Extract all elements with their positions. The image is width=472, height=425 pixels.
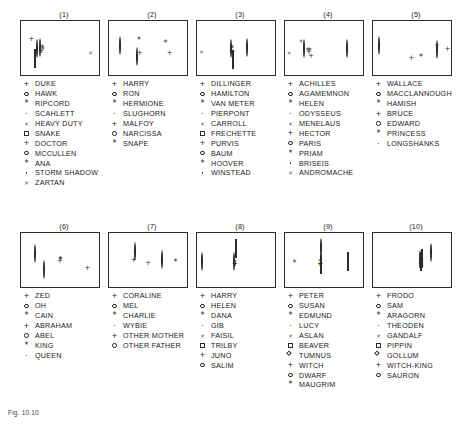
legend: +DUKEHAWK*RIPCORDSCAHLETT×HEAVY DUTYSNAK… bbox=[20, 79, 108, 188]
legend-item: SAURON bbox=[372, 370, 460, 380]
legend-label: RON bbox=[121, 89, 140, 98]
legend-key bbox=[372, 370, 385, 380]
legend-label: HAMILTON bbox=[209, 89, 249, 98]
legend-key bbox=[108, 340, 121, 350]
legend-label: HAWK bbox=[33, 89, 57, 98]
legend-label: PRIAM bbox=[297, 149, 323, 158]
legend-key bbox=[108, 128, 121, 138]
data-point: * bbox=[59, 250, 63, 266]
legend-label: OH bbox=[33, 301, 46, 310]
legend-label: STORM SHADOW bbox=[33, 168, 98, 177]
plus-marker-icon: + bbox=[288, 129, 294, 137]
legend-item: *SNAPE bbox=[108, 138, 196, 148]
asterisk-marker-icon: * bbox=[377, 311, 381, 320]
legend-key bbox=[20, 301, 33, 311]
legend-key bbox=[196, 148, 209, 158]
cross-marker-icon: × bbox=[199, 48, 204, 55]
diamond-marker-icon bbox=[286, 351, 291, 356]
legend-key: + bbox=[372, 79, 385, 89]
data-point: × bbox=[38, 40, 43, 56]
plus-marker-icon: + bbox=[376, 110, 382, 118]
legend-item: RON bbox=[108, 89, 196, 99]
legend-item: OH bbox=[20, 301, 108, 311]
plot-area: +*×+*× bbox=[284, 20, 364, 76]
legend-label: FRECHETTE bbox=[209, 129, 256, 138]
panel-title: (5) bbox=[372, 10, 460, 20]
legend-key: + bbox=[196, 79, 209, 89]
legend-item: +HARRY bbox=[108, 79, 196, 89]
asterisk-marker-icon: * bbox=[113, 99, 117, 108]
circle-marker-icon bbox=[112, 304, 116, 308]
legend-item: *KING bbox=[20, 340, 108, 350]
asterisk-marker-icon: * bbox=[201, 99, 205, 108]
asterisk-marker-icon: * bbox=[59, 256, 63, 265]
legend-key: * bbox=[20, 311, 33, 321]
data-point: × bbox=[88, 42, 93, 58]
asterisk-marker-icon: * bbox=[318, 258, 322, 267]
legend-key bbox=[20, 109, 33, 119]
plot-area: +*×+ bbox=[372, 232, 452, 288]
legend-key: × bbox=[284, 119, 297, 129]
legend-key bbox=[284, 370, 297, 380]
figure-scatter-panel-grid: Fig. 10.10 (1)+*×+*×+DUKEHAWK*RIPCORDSCA… bbox=[0, 0, 472, 425]
legend-label: CORALINE bbox=[121, 291, 162, 300]
legend-key: + bbox=[20, 79, 33, 89]
circle-marker-icon bbox=[376, 373, 380, 377]
legend-key: + bbox=[372, 360, 385, 370]
legend-label: DANA bbox=[209, 311, 232, 320]
legend-key bbox=[196, 321, 209, 331]
data-point: * bbox=[173, 252, 177, 268]
legend-label: HARRY bbox=[121, 79, 149, 88]
legend-key: * bbox=[284, 148, 297, 158]
legend-label: PARIS bbox=[297, 139, 321, 148]
legend-item: +DILLINGER bbox=[196, 79, 284, 89]
legend-label: AGAMEMNON bbox=[297, 89, 349, 98]
data-point bbox=[201, 254, 203, 270]
data-point: + bbox=[408, 47, 414, 63]
legend-item: ×MENELAUS bbox=[284, 119, 372, 129]
legend-item: +HARRY bbox=[196, 291, 284, 301]
panel-title: (8) bbox=[196, 222, 284, 232]
circle-marker-icon bbox=[112, 343, 116, 347]
legend-label: MALFOY bbox=[121, 119, 154, 128]
legend-label: KING bbox=[33, 341, 54, 350]
legend-key bbox=[20, 148, 33, 158]
plot-area: +*×+* bbox=[196, 20, 276, 76]
legend-item: ×GANDALF bbox=[372, 331, 460, 341]
square-marker-icon bbox=[24, 131, 28, 135]
legend-label: PIPPIN bbox=[385, 341, 412, 350]
legend-label: EDWARD bbox=[385, 119, 420, 128]
legend-label: SALIM bbox=[209, 361, 234, 370]
data-point: × bbox=[199, 41, 204, 57]
legend-item: QUEEN bbox=[20, 350, 108, 360]
legend-key bbox=[196, 168, 209, 178]
legend: +HARRYRON*HERMIONESLUGHORN+MALFOYNARCISS… bbox=[108, 79, 196, 148]
legend-key bbox=[372, 89, 385, 99]
circle-marker-icon bbox=[288, 141, 292, 145]
panel-title: (1) bbox=[20, 10, 108, 20]
asterisk-marker-icon: * bbox=[201, 311, 205, 320]
legend-item: +WITCH-KING bbox=[372, 360, 460, 370]
data-point bbox=[436, 42, 438, 58]
cross-marker-icon: × bbox=[24, 179, 29, 186]
plus-marker-icon: + bbox=[200, 292, 206, 300]
asterisk-marker-icon: * bbox=[289, 311, 293, 320]
legend-key: + bbox=[20, 321, 33, 331]
legend-label: GIB bbox=[209, 321, 224, 330]
dot-marker-icon bbox=[26, 113, 27, 114]
legend-key: + bbox=[284, 291, 297, 301]
legend-key: * bbox=[196, 99, 209, 109]
panel-8: (8)+*×++HARRYHELEN*DANAGIB×FAISILTRILBY+… bbox=[196, 222, 284, 370]
legend-key bbox=[108, 89, 121, 99]
legend-item: HELEN bbox=[196, 301, 284, 311]
asterisk-marker-icon: * bbox=[377, 99, 381, 108]
legend-key bbox=[20, 350, 33, 360]
legend-item: +ABRAHAM bbox=[20, 321, 108, 331]
legend-item: *PRINCESS bbox=[372, 128, 460, 138]
legend-label: OTHER MOTHER bbox=[121, 331, 184, 340]
panel-4: (4)+*×+*×+ACHILLESAGAMEMNON*HELENODYSSEU… bbox=[284, 10, 372, 178]
square-marker-icon bbox=[200, 343, 204, 347]
legend-key: + bbox=[196, 350, 209, 360]
data-point bbox=[419, 252, 421, 268]
data-point bbox=[233, 254, 235, 270]
